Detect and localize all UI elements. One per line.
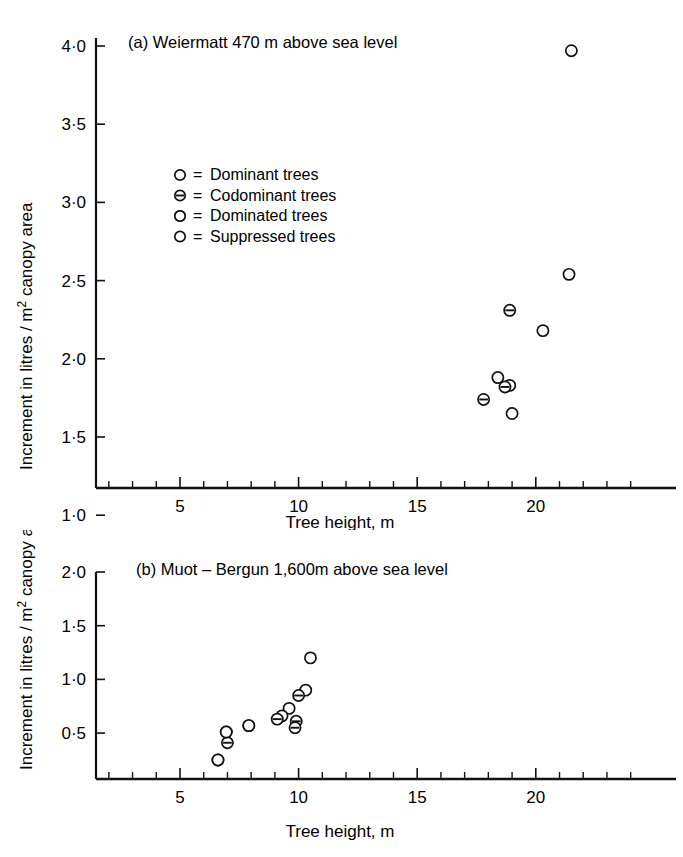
y-axis-title-b: Increment in litres / m2 canopy area [15,530,36,770]
half-outline [221,726,232,737]
y-axis-title-part1: Increment in litres / m [17,308,36,471]
legend-label-2: Dominated trees [210,207,327,224]
y-tick-label-2·0: 2·0 [61,350,86,369]
x-tick-label-15: 15 [408,497,427,516]
x-axis-title-b: Tree height, m [286,822,395,841]
y-tick-label-0·5: 0·5 [61,724,86,743]
panel-a: 0·51·01·52·02·53·03·54·05101520(a) Weier… [0,0,683,530]
open-circle-icon [506,408,517,419]
legend-equals-1: = [193,187,202,204]
y-tick-label-1·5: 1·5 [61,428,86,447]
data-point-half-filled-circle-b-dominated-trees-2 [212,754,223,765]
open-circle-icon [305,652,316,663]
y-axis-title-text-a: Increment in litres / m2 canopy area [15,202,36,470]
legend-label-3: Suppressed trees [210,228,335,245]
panel-b: 0·51·01·52·05101520(b) Muot – Bergun 1,6… [0,530,683,857]
y-axis-title-part2: canopy area [17,530,36,601]
y-tick-label-4·0: 4·0 [61,37,86,56]
data-point-open-circle-legend-0 [175,170,185,180]
data-point-open-circle-a-dominant-trees-2 [537,325,548,336]
data-point-filled-circle-legend-3 [175,231,185,241]
legend-label-1: Codominant trees [210,187,336,204]
y-tick-label-2·5: 2·5 [61,272,86,291]
y-tick-label-1·5: 1·5 [61,617,86,636]
legend-equals-0: = [193,166,202,183]
open-circle-icon [566,45,577,56]
y-tick-label-1·0: 1·0 [61,506,86,525]
data-point-half-filled-circle-legend-2 [175,211,185,221]
y-axis-title-text-b: Increment in litres / m2 canopy area [15,530,36,770]
data-point-half-filled-circle-b-dominated-trees-0 [243,720,254,731]
panel-a-plot: 0·51·01·52·02·53·03·54·05101520(a) Weier… [0,0,683,530]
data-point-circle-with-bar-a-codominant-trees-2 [478,394,489,405]
panel-title-b: (b) Muot – Bergun 1,600m above sea level [136,560,448,578]
y-tick-label-3·5: 3·5 [61,115,86,134]
x-axis-title-a: Tree height, m [286,513,395,530]
legend-label-0: Dominant trees [210,166,319,183]
legend-equals-2: = [193,207,202,224]
data-point-open-circle-a-dominant-trees-5 [506,408,517,419]
half-outline [175,211,185,221]
data-point-open-circle-a-dominant-trees-1 [563,269,574,280]
x-tick-label-20: 20 [526,788,545,807]
x-tick-label-5: 5 [175,788,184,807]
data-point-circle-with-bar-a-codominant-trees-1 [499,381,510,392]
filled-outline [175,231,185,241]
data-point-open-circle-b-dominant-trees-0 [305,652,316,663]
y-axis-title-part1: Increment in litres / m [17,608,36,771]
y-tick-label-2·0: 2·0 [61,563,86,582]
open-circle-icon [537,325,548,336]
half-outline [243,720,254,731]
legend-equals-3: = [193,228,202,245]
panel-b-plot: 0·51·01·52·05101520(b) Muot – Bergun 1,6… [0,530,683,857]
open-circle-icon [563,269,574,280]
data-point-circle-with-bar-b-codominant-trees-1 [272,714,283,725]
x-tick-label-10: 10 [289,788,308,807]
data-point-half-filled-circle-b-dominated-trees-1 [221,726,232,737]
data-point-circle-with-bar-b-codominant-trees-4 [222,737,233,748]
y-axis-title-part2: canopy area [17,202,36,301]
y-tick-label-3·0: 3·0 [61,193,86,212]
y-tick-label-1·0: 1·0 [61,670,86,689]
x-tick-label-20: 20 [526,497,545,516]
x-tick-label-5: 5 [175,497,184,516]
data-point-circle-with-bar-a-codominant-trees-0 [504,305,515,316]
data-point-circle-with-bar-b-codominant-trees-3 [289,722,300,733]
data-point-circle-with-bar-legend-1 [175,190,185,200]
y-axis-title-a: Increment in litres / m2 canopy area [15,202,36,470]
x-tick-label-15: 15 [408,788,427,807]
open-circle-icon [175,170,185,180]
figure: 0·51·01·52·02·53·03·54·05101520(a) Weier… [0,0,683,857]
data-point-open-circle-a-dominant-trees-0 [566,45,577,56]
half-outline [212,754,223,765]
panel-title-a: (a) Weiermatt 470 m above sea level [128,33,397,51]
data-point-circle-with-bar-b-codominant-trees-0 [293,690,304,701]
